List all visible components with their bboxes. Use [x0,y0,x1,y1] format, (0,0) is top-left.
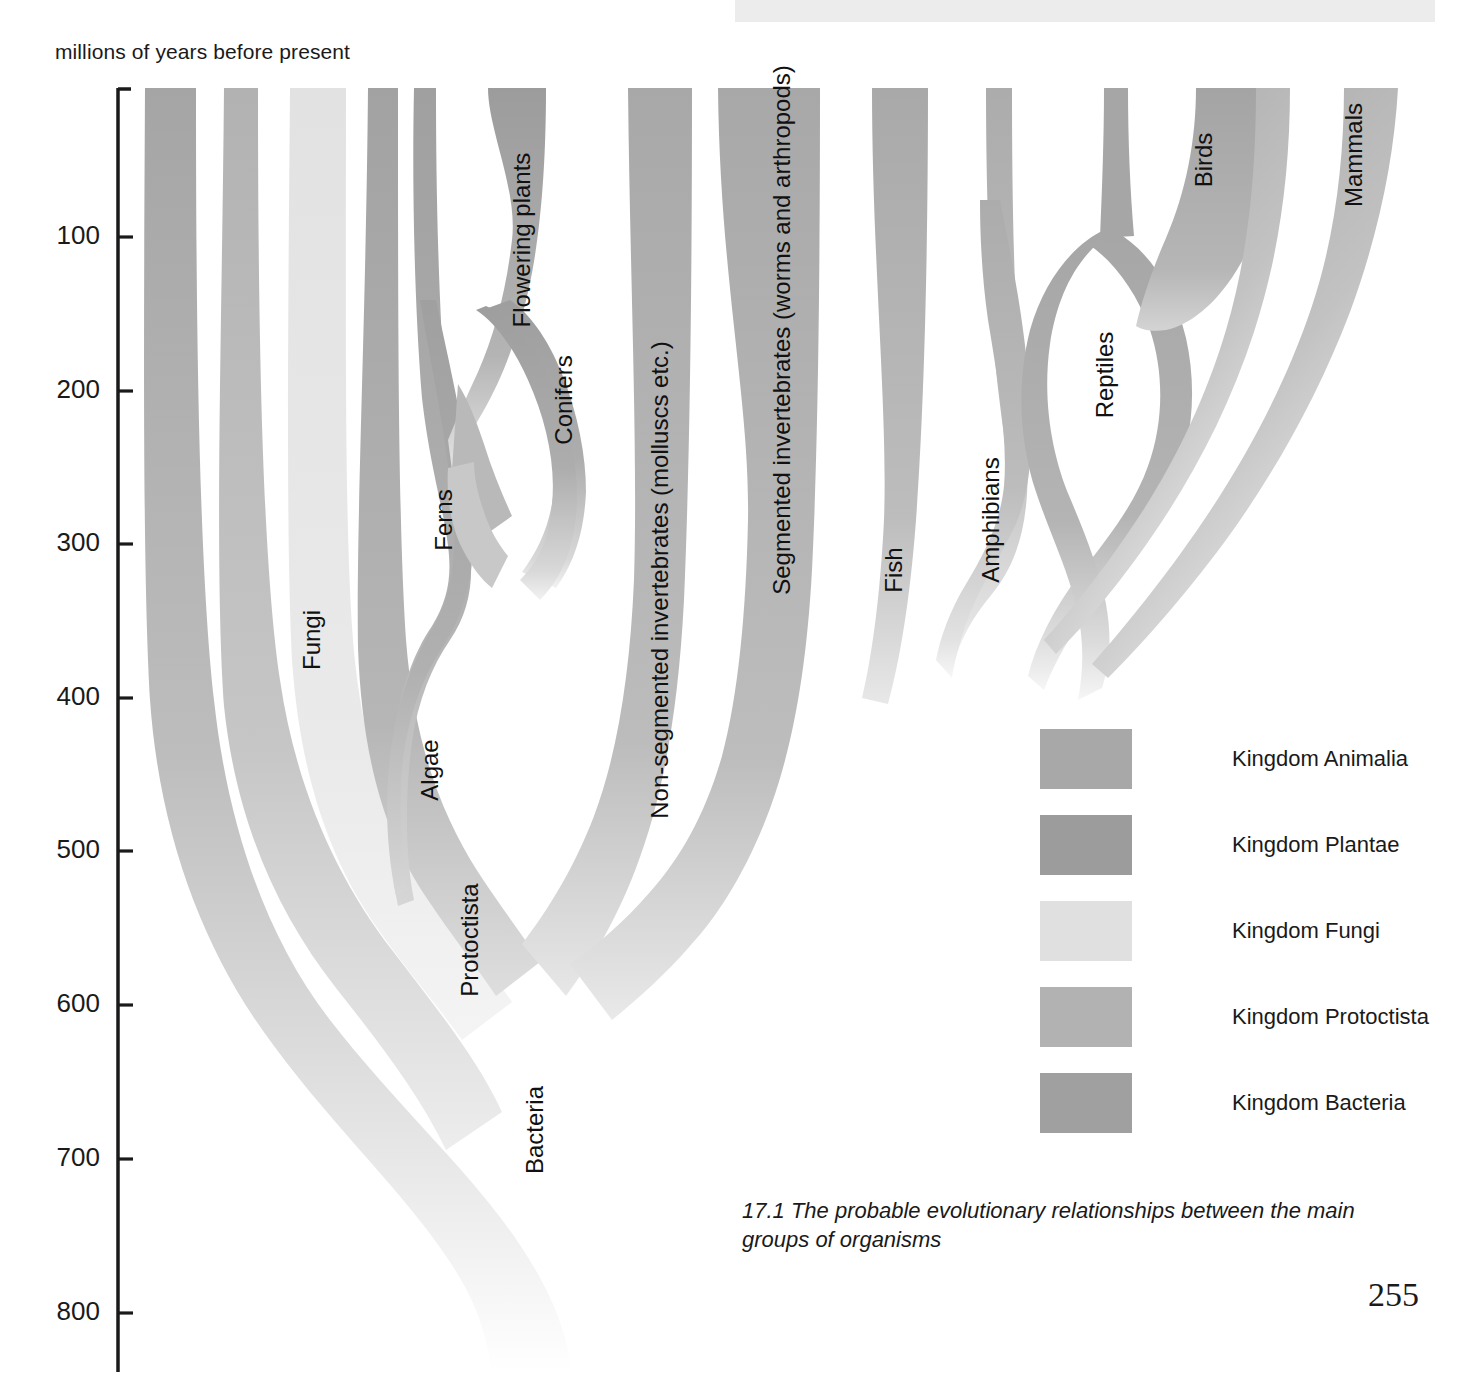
branch-label-flowering-plants: Flowering plants [508,153,535,328]
legend-label-protoctista: Kingdom Protoctista [1232,1004,1429,1030]
page-number: 255 [1368,1276,1419,1314]
axis-tick-label: 700 [20,1142,100,1173]
legend-label-fungi: Kingdom Fungi [1232,918,1380,944]
legend-swatch-fungi [1040,901,1132,961]
legend-label-plantae: Kingdom Plantae [1232,832,1400,858]
legend-item-animalia: Kingdom Animalia [1040,716,1440,802]
legend-swatch-protoctista [1040,987,1132,1047]
axis-tick-label: 800 [20,1296,100,1327]
branch-label-fish: Fish [880,547,907,592]
legend-item-plantae: Kingdom Plantae [1040,802,1440,888]
branch-label-protoctista: Protoctista [456,883,483,997]
legend-item-protoctista: Kingdom Protoctista [1040,974,1440,1060]
legend-swatch-plantae [1040,815,1132,875]
y-axis [118,88,133,1372]
branch-fish [860,88,928,712]
legend-label-animalia: Kingdom Animalia [1232,746,1408,772]
branch-label-amphibians: Amphibians [977,457,1004,582]
branch-label-mammals: Mammals [1340,103,1367,207]
evolutionary-tree-figure: Flowering plants Conifers Ferns Fungi Al… [0,0,1475,1384]
figure-caption-line-1: 17.1 The probable evolutionary relations… [742,1196,1414,1225]
axis-tick-label: 300 [20,527,100,558]
branch-label-segmented-invertebrates: Segmented invertebrates (worms and arthr… [768,65,795,595]
branch-label-algae: Algae [416,739,443,800]
legend-item-bacteria: Kingdom Bacteria [1040,1060,1440,1146]
branch-label-bacteria: Bacteria [521,1085,548,1174]
branch-label-ferns: Ferns [430,489,457,550]
axis-ticks [118,237,133,1313]
figure-caption: 17.1 The probable evolutionary relations… [742,1196,1414,1254]
axis-tick-label: 400 [20,681,100,712]
branch-label-non-segmented-invertebrates: Non-segmented invertebrates (molluscs et… [646,341,673,819]
axis-tick-label: 600 [20,988,100,1019]
axis-tick-label: 200 [20,374,100,405]
branch-label-fungi: Fungi [298,610,325,670]
axis-tick-label: 100 [20,220,100,251]
branch-amphibians [936,88,1031,678]
figure-caption-line-2: groups of organisms [742,1225,1414,1254]
legend-label-bacteria: Kingdom Bacteria [1232,1090,1406,1116]
legend-item-fungi: Kingdom Fungi [1040,888,1440,974]
branch-label-reptiles: Reptiles [1091,332,1118,419]
legend-swatch-animalia [1040,729,1132,789]
kingdom-legend: Kingdom Animalia Kingdom Plantae Kingdom… [1040,716,1440,1146]
branch-label-conifers: Conifers [550,355,577,444]
branch-label-birds: Birds [1190,133,1217,188]
axis-tick-label: 500 [20,834,100,865]
legend-swatch-bacteria [1040,1073,1132,1133]
